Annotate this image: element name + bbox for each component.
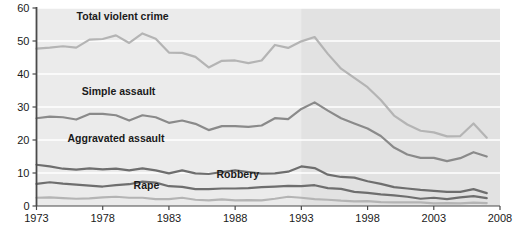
y-axis-tick-labels: 0102030405060 — [17, 2, 29, 212]
x-tick-label: 1973 — [24, 212, 48, 224]
x-axis-tick-labels: 19731978198319881993199820032008 — [24, 212, 512, 224]
x-tick-label: 1983 — [157, 212, 181, 224]
y-tick-label: 0 — [23, 200, 29, 212]
series-label-2: Aggravated assault — [68, 132, 165, 144]
x-tick-label: 1978 — [90, 212, 114, 224]
x-tick-label: 1993 — [289, 212, 313, 224]
x-tick-label: 2003 — [422, 212, 446, 224]
y-tick-label: 40 — [17, 68, 29, 80]
series-label-4: Rape — [134, 179, 160, 191]
series-label-0: Total violent crime — [77, 10, 169, 22]
y-tick-label: 20 — [17, 134, 29, 146]
line-chart: 0102030405060 19731978198319881993199820… — [0, 0, 527, 235]
x-tick-label: 1998 — [355, 212, 379, 224]
y-tick-label: 60 — [17, 2, 29, 14]
x-tick-label: 2008 — [488, 212, 512, 224]
series-label-3: Robbery — [216, 168, 259, 180]
y-tick-label: 10 — [17, 167, 29, 179]
series-label-1: Simple assault — [82, 85, 156, 97]
x-tick-label: 1988 — [223, 212, 247, 224]
chart-container: 0102030405060 19731978198319881993199820… — [0, 0, 527, 235]
y-tick-label: 50 — [17, 35, 29, 47]
y-tick-label: 30 — [17, 101, 29, 113]
